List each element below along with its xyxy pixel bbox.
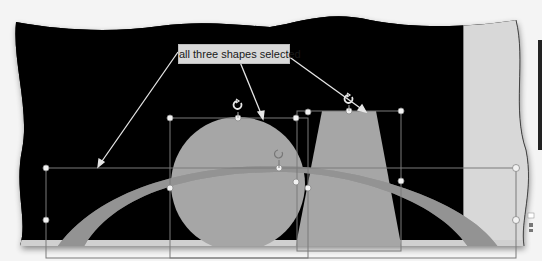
handle-icon: [513, 217, 520, 224]
handle-icon: [167, 115, 173, 121]
handle-icon: [513, 165, 520, 172]
slide-screenshot: [0, 0, 542, 261]
handle-icon: [398, 178, 404, 184]
handle-icon: [43, 165, 49, 171]
handle-icon: [167, 185, 173, 191]
handle-icon: [293, 179, 299, 185]
side-panel: [463, 0, 542, 261]
handle-icon: [398, 108, 404, 114]
handle-icon: [293, 115, 299, 121]
handle-icon: [305, 185, 311, 191]
side-panel-icons: [528, 213, 534, 232]
callout-label: all three shapes selected: [178, 44, 290, 64]
handle-icon: [43, 217, 49, 223]
circle-shape[interactable]: [171, 117, 305, 251]
handle-icon: [305, 109, 311, 115]
